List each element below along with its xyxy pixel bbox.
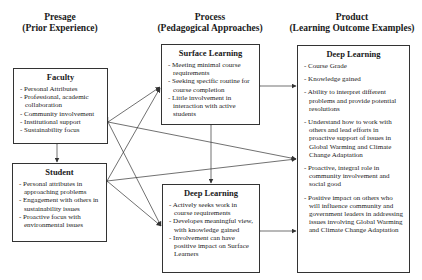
- list-item: Meeting minimal course requirements: [168, 61, 255, 77]
- product-deep-learning-list: Course Grade Knowledge gained Ability to…: [298, 62, 409, 235]
- list-item: Institutional support: [20, 118, 103, 126]
- list-item: Professional, academic collaboration: [20, 93, 103, 109]
- process-deep-learning-title: Deep Learning: [163, 188, 259, 198]
- list-item: Knowledge gained: [304, 75, 405, 83]
- faculty-list: Personal Attributes Professional, academ…: [14, 85, 107, 134]
- surface-learning-box: Surface Learning Meeting minimal course …: [161, 44, 260, 125]
- faculty-surface-arrow: [108, 87, 160, 122]
- faculty-box: Faculty Personal Attributes Professional…: [13, 68, 108, 144]
- list-item: Ability to interpret different problems …: [304, 88, 405, 113]
- list-item: Seeking specific routine for course comp…: [168, 77, 255, 93]
- student-deep-arrow: [107, 181, 161, 226]
- list-item: Involvement can have positive impact on …: [169, 234, 255, 259]
- student-title: Student: [13, 167, 106, 177]
- list-item: Proactive focus with environmental issue…: [19, 213, 102, 229]
- list-item: Actively seeks work in course requiremen…: [169, 201, 255, 217]
- process-deep-learning-list: Actively seeks work in course requiremen…: [163, 201, 259, 258]
- list-item: Personal attributes in approaching probl…: [19, 180, 102, 196]
- student-surface-arrow: [107, 88, 160, 181]
- product-deep-learning-title: Deep Learning: [298, 49, 409, 59]
- list-item: Personal Attributes: [20, 85, 103, 93]
- list-item: Positive impact on others who will influ…: [304, 194, 405, 235]
- student-list: Personal attributes in approaching probl…: [13, 180, 106, 229]
- list-item: Sustainability focus: [20, 126, 103, 134]
- student-product-arrow: [107, 159, 296, 181]
- surface-learning-title: Surface Learning: [162, 48, 259, 58]
- list-item: Community involvement: [20, 110, 103, 118]
- list-item: Understand how to work with others and l…: [304, 118, 405, 159]
- list-item: Proactive, integral role in community in…: [304, 164, 405, 189]
- faculty-deep-arrow: [108, 122, 161, 226]
- surface-learning-list: Meeting minimal course requirements Seek…: [162, 61, 259, 118]
- faculty-product-arrow: [108, 122, 296, 159]
- list-item: Engagement with others in sustainability…: [19, 196, 102, 212]
- student-box: Student Personal attributes in approachi…: [12, 163, 107, 242]
- faculty-title: Faculty: [14, 72, 107, 82]
- process-deep-learning-box: Deep Learning Actively seeks work in cou…: [162, 184, 260, 273]
- list-item: Little involvement in interaction with a…: [168, 94, 255, 119]
- list-item: Course Grade: [304, 62, 405, 70]
- product-deep-learning-box: Deep Learning Course Grade Knowledge gai…: [297, 45, 410, 273]
- list-item: Developes meaningful view, with knowledg…: [169, 217, 255, 233]
